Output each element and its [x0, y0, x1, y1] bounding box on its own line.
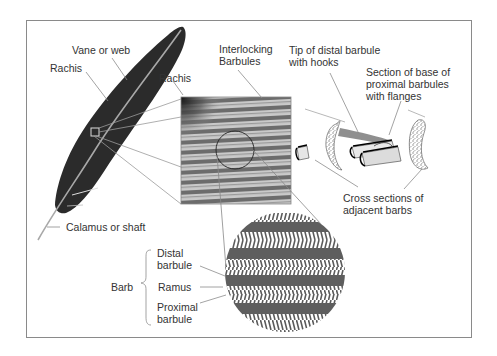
label-rachis-zoom: Rachis — [159, 72, 191, 84]
label-interlocking-barbules: Interlocking Barbules — [219, 43, 273, 67]
label-cross-sections: Cross sections of adjacent barbs — [343, 192, 424, 216]
label-calamus: Calamus or shaft — [66, 221, 145, 233]
label-tip-distal-barbule: Tip of distal barbule with hooks — [289, 44, 380, 68]
barbule-texture-square — [181, 97, 291, 204]
barb-detail-circle — [224, 211, 346, 334]
label-vane: Vane or web — [72, 44, 130, 56]
feather-illustration — [38, 27, 186, 240]
label-distal-barbule: Distal barbule — [157, 247, 192, 271]
label-section-base-proximal: Section of base of proximal barbules wit… — [366, 66, 450, 102]
label-barb: Barb — [111, 281, 133, 293]
label-proximal-barbule: Proximal barbule — [157, 301, 198, 325]
feather-diagram: Vane or web Rachis Rachis Calamus or sha… — [0, 0, 497, 356]
label-rachis-feather: Rachis — [50, 62, 82, 74]
label-ramus: Ramus — [158, 281, 191, 293]
